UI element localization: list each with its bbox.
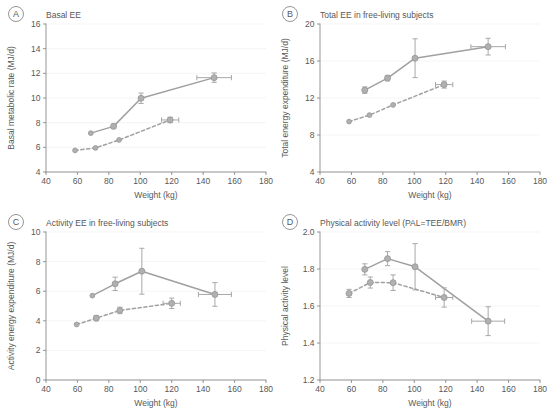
y-tick-label: 16 <box>305 56 315 66</box>
x-tick-label: 80 <box>378 176 388 186</box>
x-tick-label: 180 <box>533 384 547 394</box>
x-tick-label: 40 <box>41 384 51 394</box>
data-point-marker <box>412 264 418 270</box>
series-line-solid <box>365 47 488 90</box>
data-point-marker <box>90 293 95 298</box>
y-axis: 48121620 <box>305 19 320 177</box>
data-point-marker <box>212 291 218 297</box>
series-solid <box>362 38 506 93</box>
chart-panel-d: DPhysical activity level (PAL=TEE/BMR)1.… <box>274 208 548 416</box>
panel-letter-badge-d: D <box>283 215 298 230</box>
y-tick-label: 1.8 <box>303 264 315 274</box>
panel-letter: A <box>13 9 19 19</box>
panel-letter-badge-b: B <box>283 7 298 22</box>
x-tick-label: 40 <box>315 384 325 394</box>
x-tick-label: 180 <box>533 176 547 186</box>
y-axis-title: Activity energy expenditure (MJ/d) <box>6 242 16 371</box>
x-axis-title: Weight (kg) <box>408 190 451 200</box>
data-point-marker <box>93 146 98 151</box>
data-point-marker <box>111 123 117 129</box>
data-point-marker <box>441 82 447 88</box>
panel-letter-badge-a: A <box>9 7 24 22</box>
x-axis-title: Weight (kg) <box>134 190 177 200</box>
chart-panel-b: BTotal EE in free-living subjects4812162… <box>274 0 548 208</box>
y-tick-label: 8 <box>36 118 41 128</box>
x-tick-label: 140 <box>196 176 210 186</box>
x-tick-label: 80 <box>104 384 114 394</box>
x-tick-label: 160 <box>227 384 241 394</box>
x-tick-label: 100 <box>407 384 421 394</box>
x-axis: 406080100120140160180 <box>41 172 273 186</box>
series-solid <box>362 244 505 336</box>
data-point-marker <box>112 281 118 287</box>
data-point-marker <box>167 117 173 123</box>
x-tick-label: 80 <box>104 176 114 186</box>
gridlines <box>320 24 540 172</box>
x-tick-label: 120 <box>165 384 179 394</box>
panel-letter: D <box>287 217 294 227</box>
y-axis: 0246810 <box>31 227 46 385</box>
y-tick-label: 4 <box>36 167 41 177</box>
x-tick-label: 40 <box>41 176 51 186</box>
y-tick-label: 8 <box>310 130 315 140</box>
y-tick-label: 1.2 <box>303 375 315 385</box>
y-tick-label: 1.6 <box>303 301 315 311</box>
y-tick-label: 4 <box>310 167 315 177</box>
y-tick-label: 16 <box>31 19 41 29</box>
x-tick-label: 120 <box>439 384 453 394</box>
series-line-solid <box>91 78 214 133</box>
y-axis-title: Total energy expenditure (MJ/d) <box>280 38 290 158</box>
data-point-marker <box>138 95 144 101</box>
data-point-marker <box>73 148 78 153</box>
data-point-marker <box>412 55 418 61</box>
data-point-marker <box>139 268 145 274</box>
series-solid <box>90 248 231 306</box>
y-axis: 46810121416 <box>31 19 46 177</box>
x-tick-label: 60 <box>73 176 83 186</box>
data-point-marker <box>362 87 368 93</box>
chart-panel-a: ABasal EE4681012141640608010012014016018… <box>0 0 274 208</box>
data-point-marker <box>211 75 217 81</box>
series-dashed <box>74 298 180 327</box>
x-tick-label: 40 <box>315 176 325 186</box>
data-point-marker <box>385 256 391 262</box>
gridlines <box>320 232 540 380</box>
data-point-marker <box>485 318 491 324</box>
data-point-marker <box>362 266 368 272</box>
y-tick-label: 10 <box>31 93 41 103</box>
x-tick-label: 160 <box>501 176 515 186</box>
figure-panel-grid: ABasal EE4681012141640608010012014016018… <box>0 0 548 417</box>
data-point-marker <box>385 75 391 81</box>
data-point-marker <box>74 322 79 327</box>
chart-svg-b: BTotal EE in free-living subjects4812162… <box>274 0 548 208</box>
chart-panel-c: CActivity EE in free-living subjects0246… <box>0 208 274 416</box>
x-tick-label: 100 <box>407 176 421 186</box>
x-tick-label: 120 <box>439 176 453 186</box>
series-line-solid <box>92 271 215 295</box>
x-tick-label: 100 <box>133 176 147 186</box>
y-tick-label: 20 <box>305 19 315 29</box>
y-tick-label: 6 <box>36 142 41 152</box>
gridlines <box>46 24 266 172</box>
series-solid <box>88 73 231 136</box>
y-tick-label: 10 <box>31 227 41 237</box>
series-dashed <box>346 275 453 307</box>
panel-title: Basal EE <box>46 10 81 20</box>
data-point-marker <box>485 44 491 50</box>
x-axis-title: Weight (kg) <box>134 398 177 408</box>
panel-title: Physical activity level (PAL=TEE/BMR) <box>320 218 466 228</box>
y-tick-label: 8 <box>36 257 41 267</box>
series-line-dashed <box>349 283 444 298</box>
chart-svg-d: DPhysical activity level (PAL=TEE/BMR)1.… <box>274 208 548 416</box>
data-point-marker <box>93 315 99 321</box>
x-tick-label: 160 <box>227 176 241 186</box>
x-tick-label: 60 <box>347 384 357 394</box>
panel-letter: C <box>13 217 20 227</box>
data-point-marker <box>390 280 396 286</box>
data-point-marker <box>169 300 175 306</box>
y-tick-label: 12 <box>31 68 41 78</box>
data-point-marker <box>346 290 352 296</box>
x-axis-title: Weight (kg) <box>408 398 451 408</box>
data-point-marker <box>117 138 122 143</box>
x-tick-label: 80 <box>378 384 388 394</box>
